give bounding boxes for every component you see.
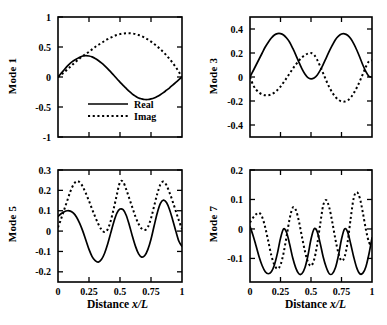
y-tick-label: 0.3 xyxy=(39,165,52,176)
x-tick-label: 1 xyxy=(180,286,185,297)
y-tick-label: 0.1 xyxy=(231,194,244,205)
plot-frame xyxy=(250,17,372,137)
y-tick-label: 0 xyxy=(46,226,51,237)
y-tick-label: -0.4 xyxy=(227,120,243,131)
legend-label-imag: Imag xyxy=(134,111,156,122)
x-tick-label: 0.25 xyxy=(272,286,290,297)
curves-group xyxy=(58,33,182,99)
curves-group xyxy=(250,192,372,274)
x-axis-label-prefix: Distance xyxy=(285,298,330,310)
y-tick-label: 0.5 xyxy=(39,42,52,53)
plot-frame xyxy=(58,170,182,282)
y-tick-label: 1 xyxy=(46,12,51,23)
y-tick-label: 0.2 xyxy=(231,48,244,59)
x-axis-label-mode-5: Distance x/L xyxy=(50,298,185,310)
y-tick-label: 0 xyxy=(46,72,51,83)
y-tick-label: -0.1 xyxy=(227,253,243,264)
y-tick-label: -0.1 xyxy=(35,246,51,257)
curve-imag xyxy=(250,53,372,102)
y-axis-label-mode-5: Mode 5 xyxy=(6,194,18,254)
y-tick-label: 0 xyxy=(238,224,243,235)
y-axis-label-mode-3: Mode 3 xyxy=(207,46,219,106)
y-tick-label: 0.4 xyxy=(231,24,244,35)
y-tick-label: -0.2 xyxy=(227,96,243,107)
x-axis-label-prefix: Distance xyxy=(87,298,132,310)
x-axis-label-variable: x/L xyxy=(330,298,346,310)
panel-mode-7: Mode 7 00.250.50.751-0.100.10.2 Distance… xyxy=(193,160,387,325)
y-axis-label-mode-1: Mode 1 xyxy=(6,46,18,106)
y-tick-label: 0.2 xyxy=(231,165,244,176)
y-tick-label: 0 xyxy=(238,72,243,83)
y-tick-label: 0.1 xyxy=(39,205,52,216)
x-tick-label: 0.75 xyxy=(142,286,160,297)
x-axis-label-mode-7: Distance x/L xyxy=(248,298,383,310)
plot-frame xyxy=(250,170,372,282)
plot-area-mode-1: -1-0.500.51RealImag xyxy=(0,0,193,160)
curve-imag xyxy=(58,181,182,232)
curves-group xyxy=(58,181,182,262)
y-tick-label: 0.2 xyxy=(39,185,52,196)
x-axis-label-variable: x/L xyxy=(132,298,148,310)
x-tick-label: 0.5 xyxy=(305,286,318,297)
mode-shapes-figure: Mode 1 -1-0.500.51RealImag Mode 3 -0.4-0… xyxy=(0,0,387,325)
curve-real xyxy=(58,200,182,262)
x-tick-label: 0.25 xyxy=(80,286,98,297)
y-axis-label-mode-7: Mode 7 xyxy=(207,194,219,254)
curve-real xyxy=(250,33,372,78)
x-tick-label: 0 xyxy=(248,286,253,297)
legend-label-real: Real xyxy=(134,99,154,110)
curve-imag xyxy=(58,33,182,77)
x-tick-label: 0 xyxy=(56,286,61,297)
plot-area-mode-3: -0.4-0.200.20.4 xyxy=(193,0,387,160)
legend: RealImag xyxy=(88,99,156,122)
panel-mode-3: Mode 3 -0.4-0.200.20.4 xyxy=(193,0,387,160)
y-tick-label: -0.5 xyxy=(35,102,51,113)
panel-mode-1: Mode 1 -1-0.500.51RealImag xyxy=(0,0,193,160)
curve-real xyxy=(250,227,372,275)
x-tick-label: 1 xyxy=(370,286,375,297)
curves-group xyxy=(250,33,372,101)
panel-mode-5: Mode 5 00.250.50.751-0.2-0.100.10.20.3 D… xyxy=(0,160,193,325)
y-tick-label: -1 xyxy=(43,132,51,143)
y-tick-label: -0.2 xyxy=(35,266,51,277)
x-tick-label: 0.5 xyxy=(114,286,127,297)
x-tick-label: 0.75 xyxy=(333,286,351,297)
